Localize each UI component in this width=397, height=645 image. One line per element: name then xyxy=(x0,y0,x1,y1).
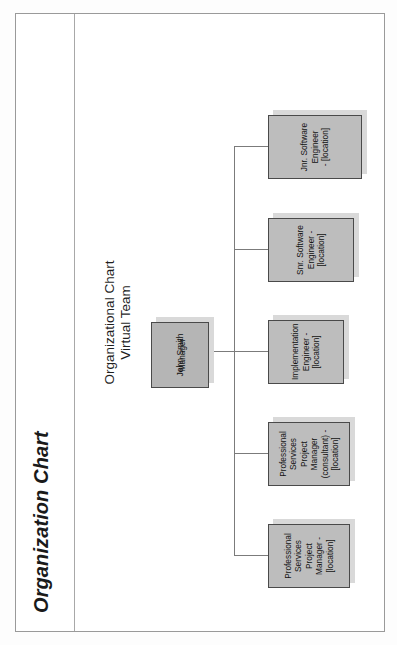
node-4-line-2: Engineer - [location] xyxy=(306,222,327,278)
scanned-page: Organization Chart Organizational Chart … xyxy=(0,0,397,645)
node-professional-services-project-manager-consultant[interactable]: Professional Services Project Manager (c… xyxy=(268,422,350,486)
connector-branch-4 xyxy=(234,249,268,250)
node-5-line-2: - [location] xyxy=(320,119,331,175)
node-1-line-2: Project Manager - xyxy=(304,528,325,584)
node-root-manager[interactable]: John Smith xyxy=(151,322,209,388)
node-root-line-1: John Smith xyxy=(175,326,186,384)
node-jnr-software-engineer[interactable]: Jnr. Software Engineer - [location] xyxy=(268,115,362,179)
node-3-line-2: Engineer - [location] xyxy=(301,324,322,380)
slide-content-rotated: Organization Chart Organizational Chart … xyxy=(16,14,384,631)
node-2-line-3: (consultant) - [location] xyxy=(320,426,341,482)
node-3-line-1: Implementation xyxy=(290,324,301,380)
node-1-line-1: Professional Services xyxy=(283,528,304,584)
node-5-line-1: Jnr. Software Engineer xyxy=(299,119,320,175)
slide-frame: Organization Chart Organizational Chart … xyxy=(15,13,385,632)
connector-branch-3 xyxy=(234,351,268,352)
org-chart: John Smith Manager Professional Services… xyxy=(16,14,384,631)
node-snr-software-engineer[interactable]: Snr. Software Engineer - [location] xyxy=(268,218,354,282)
node-1-line-3: [location] xyxy=(325,528,336,584)
node-professional-services-project-manager[interactable]: Professional Services Project Manager - … xyxy=(268,524,350,588)
node-2-line-2: Project Manager xyxy=(299,426,320,482)
node-2-line-1: Professional Services xyxy=(278,426,299,482)
connector-branch-2 xyxy=(234,453,268,454)
connector-branch-5 xyxy=(234,146,268,147)
node-4-line-1: Snr. Software xyxy=(295,222,306,278)
connector-branch-1 xyxy=(234,555,268,556)
node-implementation-engineer[interactable]: Implementation Engineer - [location] xyxy=(268,320,344,384)
